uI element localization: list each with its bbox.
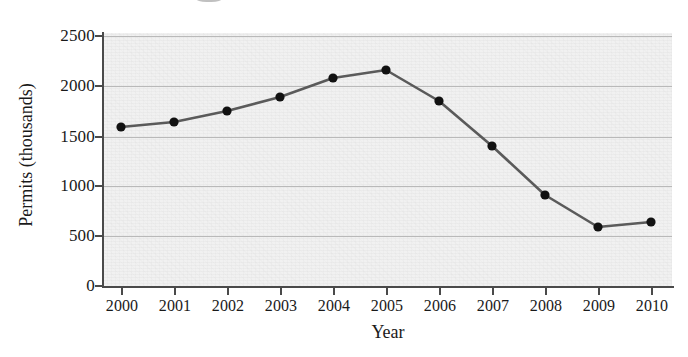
data-point-2001 bbox=[169, 117, 178, 126]
data-point-2006 bbox=[434, 96, 443, 105]
series-line-permits bbox=[121, 70, 651, 227]
series-markers-permits bbox=[116, 65, 655, 231]
chart-screenshot: 2500 2000 1500 1000 500 0 2000 2001 2002… bbox=[0, 0, 688, 357]
data-point-2002 bbox=[222, 106, 231, 115]
data-point-2004 bbox=[328, 73, 337, 82]
data-point-2000 bbox=[116, 122, 125, 131]
data-point-2003 bbox=[275, 92, 284, 101]
data-series-layer bbox=[0, 0, 688, 357]
data-point-2010 bbox=[646, 217, 655, 226]
data-point-2009 bbox=[593, 222, 602, 231]
data-point-2008 bbox=[540, 190, 549, 199]
data-point-2005 bbox=[381, 65, 390, 74]
data-point-2007 bbox=[487, 141, 496, 150]
